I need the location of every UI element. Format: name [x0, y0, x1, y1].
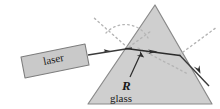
figure-root: laser R glass [0, 0, 220, 109]
glass-label: glass [110, 92, 132, 104]
r-label: R [121, 78, 131, 93]
refraction-diagram: laser R glass [0, 0, 220, 109]
